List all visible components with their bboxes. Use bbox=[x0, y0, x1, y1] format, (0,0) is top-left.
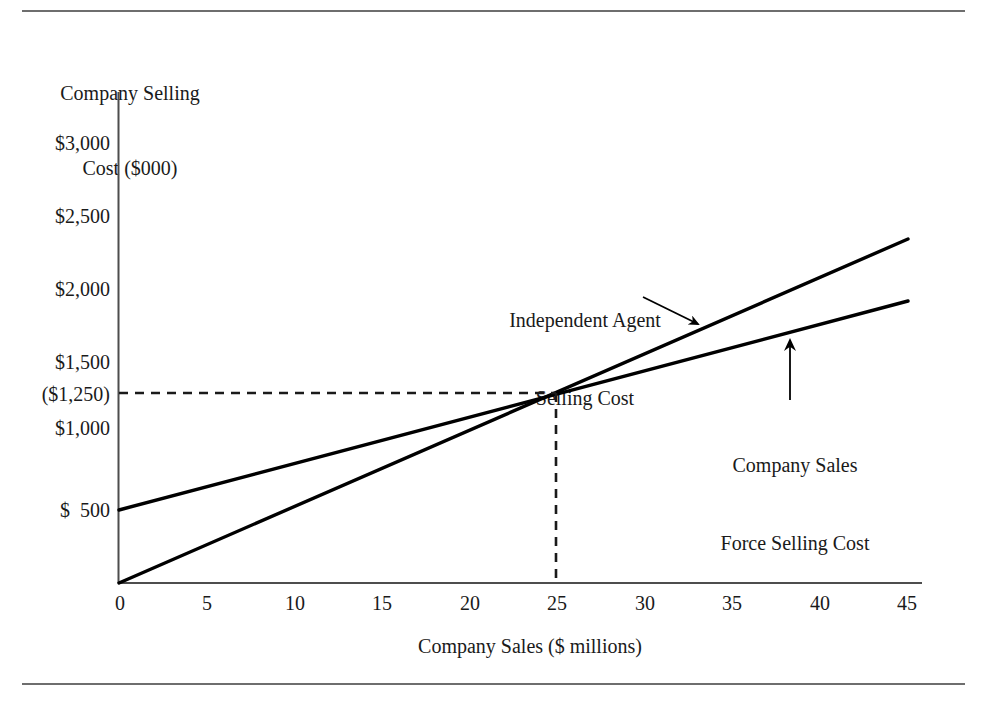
figure-container: Company Selling Cost ($000) $3,000 $2,50… bbox=[0, 0, 987, 701]
annotation-arrow-independent-agent-icon bbox=[643, 297, 698, 324]
series-line-company-sales-force bbox=[119, 301, 908, 510]
plot-area bbox=[0, 0, 987, 701]
series-line-independent-agent bbox=[119, 239, 908, 583]
